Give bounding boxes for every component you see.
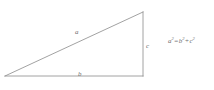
side-label-vertical: c [146,43,149,50]
side-label-hypotenuse: a [75,29,79,36]
triangle-side-hypotenuse [5,12,143,76]
equation-term-c-exponent: 2 [193,36,195,41]
pythagorean-equation: a2=b2+c2 [168,37,195,45]
diagram-canvas: a b c a2=b2+c2 [0,0,214,90]
side-label-base: b [78,71,82,78]
